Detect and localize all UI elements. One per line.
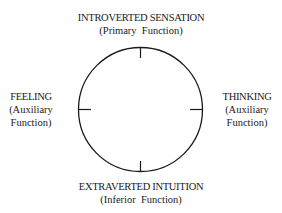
label-top: INTROVERTED SENSATION (Primary Function)	[0, 11, 282, 37]
left-subtitle-2: Function)	[0, 116, 62, 129]
label-left: FEELING (Auxiliary Function)	[0, 90, 62, 129]
left-subtitle-1: (Auxiliary	[0, 103, 62, 116]
label-bottom: EXTRAVERTED INTUITION (Inferior Function…	[0, 180, 282, 206]
bottom-subtitle: (Inferior Function)	[0, 193, 282, 206]
left-title: FEELING	[0, 90, 62, 103]
top-subtitle: (Primary Function)	[0, 24, 282, 37]
function-circle	[79, 48, 203, 172]
top-title: INTROVERTED SENSATION	[0, 11, 282, 24]
bottom-title: EXTRAVERTED INTUITION	[0, 180, 282, 193]
label-right: THINKING (Auxiliary Function)	[212, 90, 282, 129]
right-subtitle-1: (Auxiliary	[212, 103, 282, 116]
right-subtitle-2: Function)	[212, 116, 282, 129]
right-title: THINKING	[212, 90, 282, 103]
